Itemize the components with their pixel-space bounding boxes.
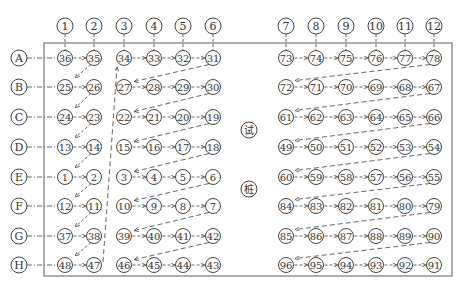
svg-text:47: 47: [88, 260, 101, 271]
pile-node-2: 2: [87, 170, 102, 185]
svg-text:75: 75: [340, 53, 353, 64]
pile-node-95: 95: [309, 258, 324, 273]
pile-node-3: 3: [117, 170, 132, 185]
column-header-4: 4: [146, 18, 162, 34]
pile-node-10: 10: [117, 199, 132, 214]
svg-text:46: 46: [118, 260, 131, 271]
svg-text:3: 3: [121, 172, 127, 183]
pile-node-20: 20: [176, 110, 191, 125]
svg-text:76: 76: [370, 53, 383, 64]
pile-node-15: 15: [117, 140, 132, 155]
pile-node-27: 27: [117, 80, 132, 95]
pile-node-63: 63: [339, 110, 354, 125]
column-header-9: 9: [338, 18, 354, 34]
svg-text:63: 63: [340, 112, 353, 123]
svg-text:95: 95: [310, 260, 323, 271]
frame-rect: [44, 43, 452, 276]
sequence-arrow: [103, 68, 117, 263]
pile-node-17: 17: [176, 140, 191, 155]
sequence-arrow: [296, 94, 431, 111]
svg-text:57: 57: [370, 172, 383, 183]
row-header-B: B: [11, 79, 27, 95]
svg-text:58: 58: [340, 172, 353, 183]
svg-text:15: 15: [118, 142, 131, 153]
svg-text:30: 30: [207, 82, 220, 93]
svg-text:1: 1: [62, 172, 68, 183]
row-header-G: G: [11, 228, 27, 244]
sequence-arrow: [135, 94, 210, 112]
pile-node-77: 77: [398, 51, 413, 66]
column-header-label: 5: [180, 20, 187, 33]
row-header-E: E: [11, 169, 27, 185]
row-header-D: D: [11, 139, 27, 155]
pile-node-66: 66: [427, 110, 442, 125]
svg-text:92: 92: [399, 260, 412, 271]
row-header-H: H: [11, 257, 27, 273]
svg-text:21: 21: [148, 112, 161, 123]
pile-node-12: 12: [58, 199, 73, 214]
svg-text:20: 20: [177, 112, 190, 123]
column-header-label: 3: [121, 20, 128, 33]
pile-node-85: 85: [279, 229, 294, 244]
svg-text:25: 25: [59, 82, 72, 93]
pile-node-1: 1: [58, 170, 73, 185]
column-header-6: 6: [205, 18, 221, 34]
svg-text:34: 34: [118, 53, 131, 64]
svg-text:59: 59: [310, 172, 323, 183]
pile-node-71: 71: [309, 80, 324, 95]
pile-node-49: 49: [279, 140, 294, 155]
pile-node-40: 40: [147, 229, 162, 244]
row-header-label: D: [15, 141, 24, 154]
pile-node-61: 61: [279, 110, 294, 125]
column-header-2: 2: [86, 18, 102, 34]
svg-text:82: 82: [340, 201, 353, 212]
column-header-11: 11: [397, 18, 413, 34]
sequence-arrow: [76, 65, 92, 78]
column-header-label: 11: [398, 20, 412, 33]
svg-text:67: 67: [428, 82, 441, 93]
column-header-7: 7: [278, 18, 294, 34]
pile-node-45: 45: [147, 258, 162, 273]
svg-text:70: 70: [340, 82, 353, 93]
svg-text:38: 38: [88, 231, 101, 242]
pile-node-80: 80: [398, 199, 413, 214]
pile-node-26: 26: [87, 80, 102, 95]
pile-node-55: 55: [427, 170, 442, 185]
pile-node-8: 8: [176, 199, 191, 214]
pile-numbering-diagram: 3635252624231314121211373848473433323127…: [0, 0, 462, 286]
svg-text:44: 44: [177, 260, 190, 271]
sequence-arrow: [296, 154, 431, 171]
pile-node-67: 67: [427, 80, 442, 95]
svg-text:96: 96: [280, 260, 293, 271]
pile-node-21: 21: [147, 110, 162, 125]
svg-text:62: 62: [310, 112, 323, 123]
row-header-label: B: [15, 81, 23, 94]
pile-node-46: 46: [117, 258, 132, 273]
pile-node-6: 6: [206, 170, 221, 185]
sequence-arrow: [135, 213, 210, 231]
pile-node-58: 58: [339, 170, 354, 185]
sequence-arrow: [135, 65, 210, 82]
row-header-label: H: [14, 259, 24, 272]
svg-text:43: 43: [207, 260, 220, 271]
svg-text:9: 9: [151, 201, 157, 212]
pile-node-72: 72: [279, 80, 294, 95]
svg-text:60: 60: [280, 172, 293, 183]
sequence-arrow: [76, 94, 92, 108]
svg-text:28: 28: [148, 82, 161, 93]
column-header-label: 6: [210, 20, 217, 33]
pile-node-41: 41: [176, 229, 191, 244]
pile-node-18: 18: [206, 140, 221, 155]
svg-text:66: 66: [428, 112, 441, 123]
pile-node-56: 56: [398, 170, 413, 185]
pile-node-29: 29: [176, 80, 191, 95]
pile-node-60: 60: [279, 170, 294, 185]
pile-node-52: 52: [369, 140, 384, 155]
pile-node-86: 86: [309, 229, 324, 244]
column-header-12: 12: [426, 18, 442, 34]
svg-text:27: 27: [118, 82, 131, 93]
column-header-label: 7: [283, 20, 290, 33]
svg-text:65: 65: [399, 112, 412, 123]
svg-text:53: 53: [399, 142, 412, 153]
row-header-label: F: [15, 200, 23, 213]
